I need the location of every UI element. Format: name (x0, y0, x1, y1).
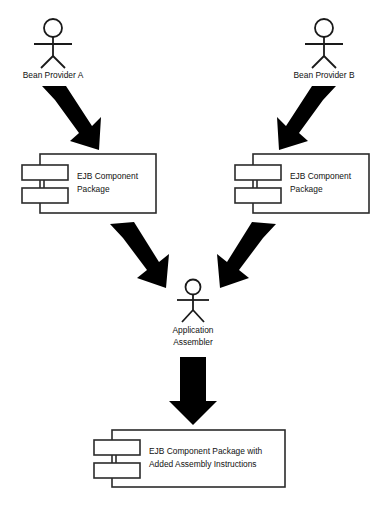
actor-stick-figure-icon (34, 19, 72, 68)
component-package-assembled: EJB Component Package with Added Assembl… (94, 430, 285, 487)
arrow-b-to-package-right (277, 86, 336, 150)
component-package-left-label-line1: EJB Component (77, 171, 139, 181)
arrow-a-to-package-left (42, 86, 101, 150)
arrow-package-left-to-assembler (110, 222, 169, 288)
component-package-right-label-line2: Package (290, 184, 323, 194)
ejb-packaging-diagram: Bean Provider A Bean Provider B (0, 0, 383, 509)
arrow-assembler-to-output (169, 357, 217, 425)
component-package-left-label-line2: Package (77, 184, 110, 194)
actor-stick-figure-icon (305, 19, 343, 68)
arrow-package-right-to-assembler (217, 222, 276, 288)
actor-bean-provider-a: Bean Provider A (23, 19, 84, 80)
actor-bean-provider-b: Bean Provider B (294, 19, 355, 80)
actor-application-assembler-label-line2: Assembler (173, 337, 213, 347)
actor-bean-provider-a-label: Bean Provider A (23, 70, 84, 80)
actor-application-assembler-label-line1: Application (173, 325, 214, 335)
actor-stick-figure-icon (177, 280, 209, 323)
component-package-right-label-line1: EJB Component (290, 171, 352, 181)
component-package-assembled-label-line2: Added Assembly Instructions (149, 459, 257, 469)
diagram-canvas: Bean Provider A Bean Provider B (0, 0, 383, 509)
component-package-right: EJB Component Package (235, 154, 369, 213)
component-package-left: EJB Component Package (22, 154, 156, 213)
actor-application-assembler: Application Assembler (173, 280, 214, 348)
actor-bean-provider-b-label: Bean Provider B (294, 70, 355, 80)
component-package-assembled-label-line1: EJB Component Package with (149, 446, 262, 456)
